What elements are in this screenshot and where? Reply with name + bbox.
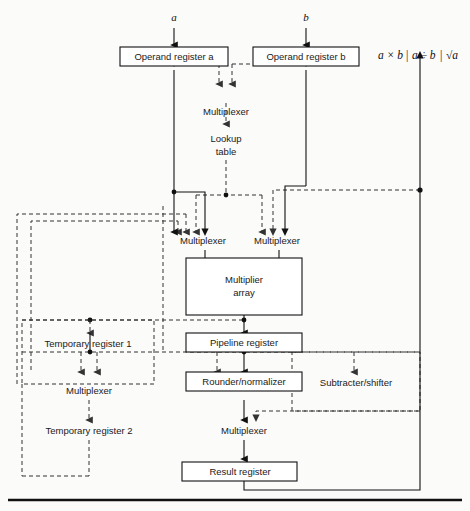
- multiplexer-result-label: Multiplexer: [221, 425, 267, 436]
- multiplexer-right-label: Multiplexer: [254, 235, 300, 246]
- operand-register-b-label: Operand register b: [266, 51, 345, 62]
- solid-b-down: [281, 62, 308, 237]
- dashed-pipeline-tap-bus: [22, 350, 420, 372]
- subtracter-shifter-label: Subtracter/shifter: [320, 377, 392, 388]
- multiplexer-lookup-label: Multiplexer: [203, 106, 249, 117]
- pipeline-register-label: Pipeline register: [210, 337, 278, 348]
- operand-register-a-label: Operand register a: [134, 51, 214, 62]
- multiplier-array-label-line1: Multiplier: [225, 274, 263, 285]
- output-term-3: √a: [446, 49, 458, 61]
- multiplexer-temp-label: Multiplexer: [66, 385, 112, 396]
- output-expression: a × b | a ÷ b | √a: [378, 49, 458, 62]
- dashed-return-right: [269, 187, 422, 236]
- dashed-tap-a-to-lookup-mux: [174, 64, 219, 84]
- output-separator-2: |: [440, 49, 442, 62]
- dashed-tap-b-to-lookup-mux: [232, 64, 306, 84]
- figure-canvas: a b Operand register a Operand register …: [0, 0, 470, 511]
- multiplexer-left-label: Multiplexer: [180, 235, 226, 246]
- rounder-normalizer-label: Rounder/normalizer: [202, 376, 285, 387]
- input-b-label: b: [303, 11, 309, 23]
- temporary-register-2-label: Temporary register 2: [45, 425, 132, 436]
- output-separator-1: |: [406, 49, 408, 62]
- input-a-label: a: [171, 11, 177, 23]
- lookup-table-label-line2: table: [216, 146, 237, 157]
- temporary-register-1-label: Temporary register 1: [44, 338, 131, 349]
- dashed-feedback-outer: [17, 214, 186, 384]
- result-register-label: Result register: [209, 466, 270, 477]
- block-diagram: a b Operand register a Operand register …: [0, 0, 470, 511]
- lookup-table-label-line1: Lookup: [210, 133, 241, 144]
- dashed-lookup-distribution-bus: [196, 160, 262, 232]
- output-term-2: a ÷ b: [412, 49, 436, 61]
- solid-a-down: [172, 62, 209, 237]
- output-term-1: a × b: [378, 49, 403, 61]
- multiplier-array-label-line2: array: [233, 287, 255, 298]
- dashed-subtracter-to-result-mux: [252, 411, 420, 422]
